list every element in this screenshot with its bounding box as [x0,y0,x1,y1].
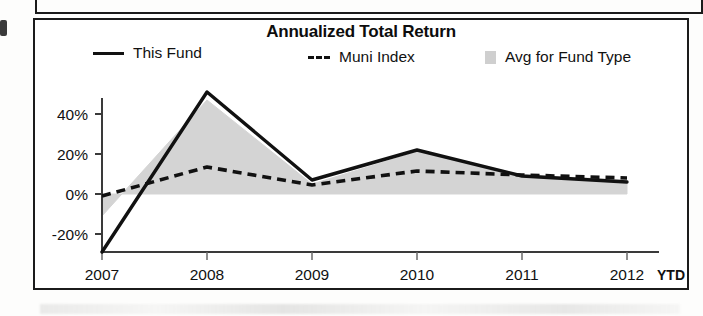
page-top-box-fragment [35,0,703,14]
scanned-page: Annualized Total Return This Fund Muni I… [0,0,703,316]
y-tick-label: 40% [57,106,88,123]
x-tick-label: 2009 [295,266,329,283]
plot-area: 40%20%0%-20% 200720082009201020112012YTD [35,20,691,292]
x-tick-label: 2007 [85,266,119,283]
y-tick-label: 0% [66,186,89,203]
x-tick-label: 2010 [400,266,435,283]
y-tick-label: -20% [52,226,88,243]
y-axis-tick-labels: 40%20%0%-20% [52,106,88,243]
chart-plot-svg: 40%20%0%-20% 200720082009201020112012YTD [35,20,691,292]
x-tick-label: 2011 [505,266,538,283]
page-bottom-artifact [40,304,680,314]
x-tick-label: 2012 [610,266,644,283]
x-tick-label: 2008 [190,266,224,283]
y-tick-label: 20% [57,146,88,163]
series-area-avg-for-fund-type [102,100,627,216]
x-axis-tick-labels: 200720082009201020112012YTD [85,266,685,283]
x-axis-ytd-label: YTD [657,267,685,283]
chart-panel: Annualized Total Return This Fund Muni I… [33,18,689,290]
page-left-margin-mark [0,20,7,36]
